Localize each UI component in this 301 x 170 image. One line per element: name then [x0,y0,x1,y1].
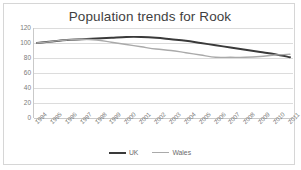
y-axis-tick-label: 100 [4,40,31,47]
y-axis-tick-label: 120 [4,25,31,32]
legend-label-uk: UK [129,150,138,157]
chart-legend: UK Wales [4,146,296,160]
y-axis-tick-label: 20 [4,100,31,107]
chart-frame: Population trends for Rook 1201008060402… [3,3,295,165]
chart-title: Population trends for Rook [4,9,296,24]
plot-area [33,28,292,118]
legend-item-wales: Wales [152,150,191,157]
series-line-wales [37,39,290,57]
legend-line-uk-icon [109,152,126,154]
plot-region: 120100806040200 199419951996199719981999… [4,28,296,126]
legend-label-wales: Wales [172,150,191,157]
series-lines [34,28,293,118]
y-axis-labels: 120100806040200 [4,28,31,118]
y-axis-tick-label: 80 [4,55,31,62]
legend-line-wales-icon [152,152,169,153]
y-axis-tick-label: 40 [4,85,31,92]
y-axis-tick-label: 60 [4,70,31,77]
y-axis-tick-label: 0 [4,115,31,122]
legend-item-uk: UK [109,150,138,157]
